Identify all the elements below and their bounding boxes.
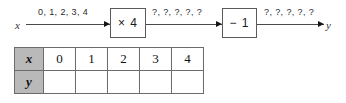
arrow-subtract-to-output	[257, 20, 324, 29]
table-cell-blank[interactable]	[44, 71, 76, 94]
table-cell-blank[interactable]	[108, 71, 140, 94]
table-row: y	[15, 71, 204, 94]
table-row: x 0 1 2 3 4	[15, 48, 204, 71]
row-header-x: x	[15, 48, 44, 71]
output-values-label: ?, ?, ?, ?, ?	[264, 8, 314, 17]
operation-box-multiply: × 4	[110, 8, 146, 38]
intermediate-values-label: ?, ?, ?, ?, ?	[152, 8, 202, 17]
table-cell: 1	[76, 48, 108, 71]
input-output-table: x 0 1 2 3 4 y	[14, 47, 204, 94]
arrow-multiply-to-subtract	[146, 20, 222, 29]
arrow-shaft	[26, 24, 110, 25]
input-values-label: 0, 1, 2, 3, 4	[38, 8, 88, 17]
table-cell-blank[interactable]	[172, 71, 204, 94]
arrow-shaft	[257, 24, 324, 25]
arrow-input-to-multiply	[26, 20, 110, 29]
table-cell-blank[interactable]	[76, 71, 108, 94]
operation-box-subtract: − 1	[222, 8, 257, 38]
row-header-y: y	[15, 71, 44, 94]
table-cell: 3	[140, 48, 172, 71]
function-machine-diagram: x 0, 1, 2, 3, 4 × 4 ?, ?, ?, ?, ? − 1 ?,…	[0, 0, 346, 103]
arrow-shaft	[146, 24, 222, 25]
input-variable-label: x	[15, 20, 20, 31]
table-cell: 2	[108, 48, 140, 71]
table-cell-blank[interactable]	[140, 71, 172, 94]
arrow-head-icon	[318, 21, 324, 27]
table-cell: 0	[44, 48, 76, 71]
table-cell: 4	[172, 48, 204, 71]
output-variable-label: y	[326, 20, 331, 31]
